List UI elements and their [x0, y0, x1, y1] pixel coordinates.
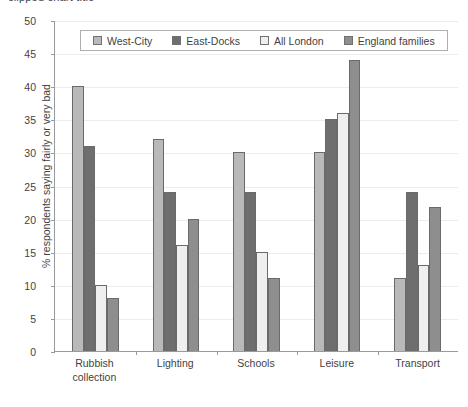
category-separator [378, 351, 379, 355]
y-tick-label: 25 [0, 181, 36, 193]
y-tick-label: 10 [0, 280, 36, 292]
bar [164, 192, 176, 351]
bar-chart: clipped chart title % respondents saying… [0, 0, 468, 407]
y-tick-label: 50 [0, 15, 36, 27]
legend-label: East-Docks [186, 35, 240, 47]
bar [406, 192, 418, 351]
category-separator [297, 351, 298, 355]
legend-swatch-icon [172, 36, 181, 45]
x-axis-label: Transport [377, 356, 458, 384]
bar-group [297, 21, 378, 351]
chart-legend: West-CityEast-DocksAll LondonEngland fam… [80, 30, 448, 51]
bar [325, 119, 337, 351]
y-tick-label: 20 [0, 214, 36, 226]
bar [95, 285, 107, 351]
x-axis-label: Leisure [296, 356, 377, 384]
bars-container [377, 21, 458, 351]
y-tick-label: 30 [0, 147, 36, 159]
bars-container [216, 21, 297, 351]
legend-label: West-City [107, 35, 152, 47]
bar [245, 192, 257, 351]
bar [188, 219, 200, 351]
bar [314, 152, 326, 351]
bar [349, 60, 361, 351]
bar [233, 152, 245, 351]
bars-container [297, 21, 378, 351]
legend-item[interactable]: West-City [93, 35, 152, 47]
bar [394, 278, 406, 351]
bar [418, 265, 430, 351]
chart-title-strip: clipped chart title [0, 0, 468, 9]
legend-item[interactable]: England families [344, 35, 435, 47]
legend-label: England families [358, 35, 435, 47]
x-axis-label: Lighting [135, 356, 216, 384]
legend-label: All London [274, 35, 324, 47]
bar-group [377, 21, 458, 351]
bar-group [216, 21, 297, 351]
y-tick-label: 35 [0, 114, 36, 126]
y-tick-label: 0 [0, 346, 36, 358]
y-axis-title: % respondents saying fairly or very bad [40, 26, 52, 326]
y-tick-label: 15 [0, 247, 36, 259]
chart-title: clipped chart title [8, 0, 94, 3]
legend-item[interactable]: All London [260, 35, 324, 47]
bar [176, 245, 188, 351]
bar [153, 139, 165, 351]
x-axis-labels: RubbishcollectionLightingSchoolsLeisureT… [54, 356, 458, 384]
legend-swatch-icon [344, 36, 353, 45]
bar-group [136, 21, 217, 351]
bar [337, 113, 349, 351]
bar [107, 298, 119, 351]
y-tick-label: 40 [0, 81, 36, 93]
y-tick-label: 5 [0, 313, 36, 325]
bar-group [55, 21, 136, 351]
legend-swatch-icon [93, 36, 102, 45]
bar [256, 252, 268, 351]
bar [84, 146, 96, 351]
x-axis-label: Rubbishcollection [54, 356, 135, 384]
bar [268, 278, 280, 351]
category-separator [217, 351, 218, 355]
bars-container [136, 21, 217, 351]
y-tick-label: 45 [0, 48, 36, 60]
bar [72, 86, 84, 351]
legend-swatch-icon [260, 36, 269, 45]
bars-container [55, 21, 136, 351]
bar [429, 207, 441, 351]
x-axis-label: Schools [216, 356, 297, 384]
plot-area: 50454035302520151050 [54, 21, 458, 352]
legend-item[interactable]: East-Docks [172, 35, 240, 47]
y-tick-mark [51, 352, 55, 353]
category-separator [136, 351, 137, 355]
bar-groups [55, 21, 458, 351]
